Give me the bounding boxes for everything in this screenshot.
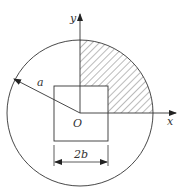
y-axis-label: y xyxy=(69,12,77,25)
radius-arrow xyxy=(14,79,80,113)
square-width-label: 2b xyxy=(73,148,88,161)
origin-label: O xyxy=(73,117,82,130)
radius-label: a xyxy=(37,76,44,89)
x-axis-label: x xyxy=(167,115,174,128)
hatched-region xyxy=(80,40,153,113)
inner-square xyxy=(54,86,108,141)
diagram-canvas: y x O a 2b xyxy=(0,0,183,196)
